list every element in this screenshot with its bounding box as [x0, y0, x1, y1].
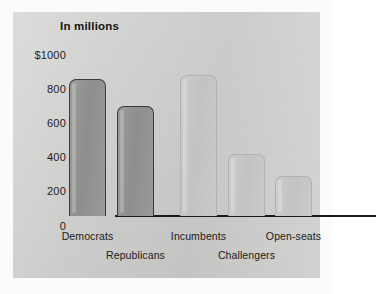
bar-highlight	[183, 79, 187, 213]
x-label-republicans: Republicans	[106, 249, 165, 261]
y-axis-tick-labels: $1000 800 600 400 200 0	[0, 0, 66, 266]
y-tick-label-1000: $1000	[8, 49, 66, 61]
bar-highlight	[231, 158, 235, 213]
bar-highlight	[72, 83, 76, 213]
bar-democrats	[69, 79, 106, 216]
x-label-challengers: Challengers	[218, 249, 275, 261]
x-label-democrats: Democrats	[62, 230, 114, 242]
bar-challengers	[228, 154, 265, 216]
plot-area: DemocratsRepublicansIncumbentsChallenger…	[68, 0, 320, 266]
y-tick-label-200: 200	[8, 185, 66, 197]
y-tick-label-600: 600	[8, 117, 66, 129]
x-label-open-seats: Open-seats	[266, 230, 321, 242]
x-label-incumbents: Incumbents	[171, 230, 226, 242]
y-tick-label-400: 400	[8, 151, 66, 163]
y-tick-label-800: 800	[8, 83, 66, 95]
bar-incumbents	[180, 75, 217, 216]
bar-open-seats	[275, 176, 312, 216]
bar-highlight	[120, 110, 124, 213]
bar-republicans	[117, 106, 154, 216]
y-tick-label-0: 0	[8, 220, 66, 232]
bar-highlight	[278, 180, 282, 213]
